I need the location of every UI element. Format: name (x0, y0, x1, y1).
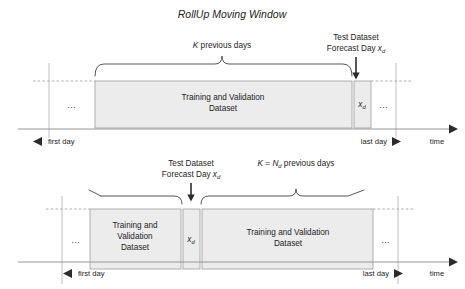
top-brace (95, 56, 352, 76)
bottom-training-validation-left-line2: Validation (117, 232, 153, 241)
bottom-time-axis-arrow-icon (449, 258, 458, 267)
bottom-right-brace (201, 189, 364, 204)
top-time-axis-arrow-icon (449, 125, 458, 134)
top-first-day-label: first day (48, 137, 75, 146)
top-panel: K previous days Test Dataset Forecast Da… (18, 33, 458, 146)
top-test-dataset-label-line2: Forecast Day xd (327, 44, 386, 54)
top-training-validation-label-line1: Training and Validation (182, 93, 265, 102)
top-ellipsis-right: … (379, 100, 389, 110)
bottom-test-dataset-label-line1: Test Dataset (168, 159, 214, 168)
top-time-label: time (430, 137, 444, 146)
bottom-training-validation-right-line1: Training and Validation (247, 228, 330, 237)
figure-title: RollUp Moving Window (178, 8, 288, 20)
top-test-dataset-label-line1: Test Dataset (333, 33, 379, 42)
bottom-test-dataset-label-line2: Forecast Day xd (162, 170, 221, 180)
top-last-day-label: last day (361, 137, 387, 146)
top-ellipsis-left: … (67, 100, 77, 110)
bottom-panel: Test Dataset Forecast Day xd K = Nd prev… (18, 159, 458, 284)
top-first-day-marker-icon (33, 137, 42, 146)
top-forecast-arrow-icon (352, 57, 359, 80)
bottom-training-validation-right-line2: Dataset (274, 239, 303, 248)
bottom-first-day-label: first day (78, 269, 105, 278)
bottom-ellipsis-right: … (381, 235, 391, 245)
bottom-ellipsis-left: … (71, 235, 81, 245)
bottom-training-validation-left-line1: Training and (112, 221, 158, 230)
bottom-left-bracket (89, 190, 182, 204)
bottom-last-day-label: last day (363, 269, 389, 278)
rollup-moving-window-figure: RollUp Moving Window K previous days Tes… (0, 0, 465, 289)
top-training-validation-label-line2: Dataset (209, 104, 238, 113)
bottom-forecast-arrow-icon (187, 183, 194, 202)
bottom-brace-label: K = Nd previous days (258, 159, 335, 169)
bottom-time-label: time (430, 269, 444, 278)
bottom-last-day-marker-icon (394, 269, 403, 278)
bottom-training-validation-left-line3: Dataset (121, 243, 150, 252)
top-last-day-marker-icon (392, 137, 401, 146)
bottom-first-day-marker-icon (63, 269, 72, 278)
top-brace-label: K previous days (193, 41, 251, 50)
